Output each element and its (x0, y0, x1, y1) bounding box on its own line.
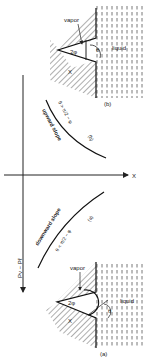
panel-b-cavity-diagram: vapor liquid 2φ θ X (b) (50, 6, 146, 107)
liquid-region-b (96, 6, 146, 98)
solid-wall-upper-b (60, 8, 96, 48)
diagram-canvas: vapor liquid 2φ θ X (b) X Pv − Pℓ upward… (0, 0, 149, 361)
lower-curve-tag: (a) (86, 214, 95, 223)
vapor-label-b: vapor (64, 17, 79, 23)
liquid-label-a: liquid (120, 298, 134, 304)
liquid-label-b: liquid (112, 45, 126, 51)
upper-curve-tag: (b) (87, 134, 95, 143)
x-axis-label: X (132, 173, 136, 179)
caption-a: (a) (100, 351, 107, 357)
caption-b: (b) (104, 101, 111, 107)
liquid-region-a (96, 262, 146, 348)
pressure-plot: X Pv − Pℓ upward slope θ > π/2 − φ (b) d… (4, 75, 136, 292)
panel-a-cavity-diagram: vapor liquid 2φ θ X (a) (46, 262, 146, 357)
angle-label-b: 2φ (70, 49, 77, 55)
x-label-a: X (68, 318, 72, 324)
upper-curve-condition: θ > π/2 − φ (57, 100, 74, 126)
downward-slope-label: downward slope (34, 207, 62, 247)
angle-label-a: 2φ (68, 300, 75, 306)
y-axis-label: Pv − Pℓ (17, 258, 23, 278)
x-label-b: X (68, 69, 72, 75)
vapor-label-a: vapor (70, 265, 85, 271)
solid-wall-lower-a (46, 302, 96, 348)
lower-curve-condition: θ < π/2 − φ (54, 227, 73, 252)
